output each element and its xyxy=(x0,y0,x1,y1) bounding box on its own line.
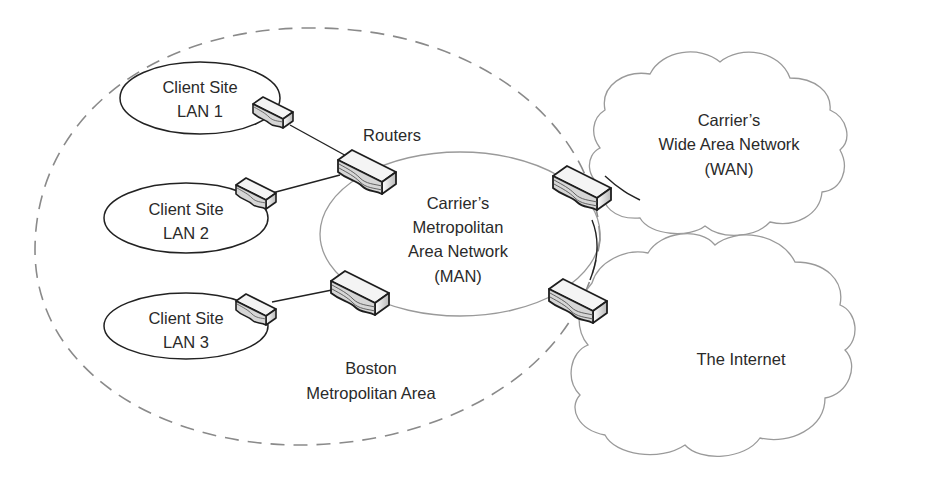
lan-1-label-line1: Client Site xyxy=(162,78,237,96)
lan-3-label-line2: LAN 3 xyxy=(163,333,209,351)
region-label-line1: Boston xyxy=(345,359,396,377)
router-icon-man-nw xyxy=(338,150,396,194)
region-label-line2: Metropolitan Area xyxy=(306,384,436,402)
man-label-line3: Area Network xyxy=(408,242,509,260)
lan-2-label-line1: Client Site xyxy=(148,200,223,218)
lan-3-label-line1: Client Site xyxy=(148,309,223,327)
network-diagram: Client Site LAN 1 Client Site LAN 2 Clie… xyxy=(0,0,934,486)
lan-1-label-line2: LAN 1 xyxy=(177,102,223,120)
wan-label-line3: (WAN) xyxy=(705,160,754,178)
router-icon-man-sw xyxy=(331,271,389,315)
lan-1-ellipse xyxy=(120,62,280,134)
router-icon-lan1 xyxy=(253,97,293,128)
man-label-line2: Metropolitan xyxy=(413,218,504,236)
man-label-line4: (MAN) xyxy=(434,267,482,285)
routers-label: Routers xyxy=(363,126,421,144)
lan-2-label-line2: LAN 2 xyxy=(163,224,209,242)
wan-label-line1: Carrier’s xyxy=(698,111,761,129)
internet-label: The Internet xyxy=(697,350,786,368)
man-label-line1: Carrier’s xyxy=(427,194,490,212)
wan-label-line2: Wide Area Network xyxy=(658,135,800,153)
internet-cloud xyxy=(571,234,855,457)
